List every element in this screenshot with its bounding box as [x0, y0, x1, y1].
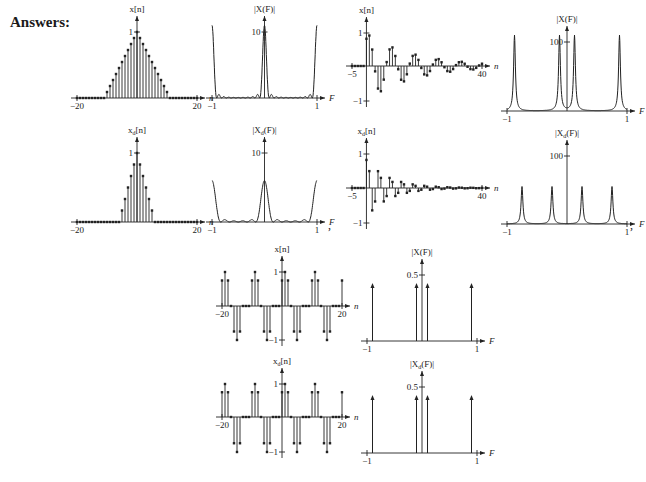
- y-tick-label: 1: [129, 148, 134, 158]
- y-axis-arrow-icon: [135, 16, 139, 21]
- y-tick-label: 1: [274, 379, 279, 389]
- y-tick-label: 0.5: [407, 382, 419, 392]
- x-tick-label: 1: [315, 225, 320, 235]
- x-tick-label: 1: [625, 227, 630, 237]
- x-tick-label: 1: [475, 344, 480, 354]
- answers-heading: Answers:: [10, 14, 70, 31]
- x-axis-label: F: [328, 217, 335, 227]
- plot-title: |Xd(F)|: [252, 125, 276, 136]
- x-axis-arrow-icon: [480, 339, 485, 343]
- y-tick-label: 0.5: [407, 270, 419, 280]
- x-axis-arrow-icon: [345, 415, 350, 419]
- y-axis-arrow-icon: [364, 17, 368, 22]
- x-tick-label: −1: [502, 114, 512, 124]
- x-axis-arrow-icon: [485, 64, 490, 68]
- x-tick-label: 1: [475, 456, 480, 466]
- x-axis-arrow-icon: [480, 451, 485, 455]
- plot-title: x[n]: [130, 4, 145, 14]
- y-tick-label: −1: [268, 335, 278, 345]
- x-axis-arrow-icon: [485, 186, 490, 190]
- y-axis-arrow-icon: [280, 256, 284, 261]
- plot-title: |X(F)|: [254, 4, 275, 14]
- x-tick-label: −1: [207, 225, 217, 235]
- x-tick-label: −20: [70, 101, 85, 111]
- y-tick-label: −1: [268, 447, 278, 457]
- x-axis-label: F: [488, 448, 495, 458]
- x-axis-arrow-icon: [630, 222, 635, 226]
- plot-title: xd[n]: [273, 356, 291, 367]
- y-tick-label: 1: [358, 28, 363, 38]
- x-axis-label: F: [488, 336, 495, 346]
- x-tick-label: −5: [347, 191, 357, 201]
- y-tick-label: −1: [353, 96, 363, 106]
- y-axis-arrow-icon: [263, 137, 267, 142]
- x-tick-label: −20: [215, 420, 230, 430]
- y-tick-label: 100: [550, 37, 564, 47]
- y-tick-label: 10: [252, 148, 262, 158]
- x-tick-label: 40: [478, 69, 488, 79]
- x-tick-label: −1: [207, 101, 217, 111]
- x-axis-label: F: [638, 106, 645, 116]
- x-tick-label: 20: [338, 309, 348, 319]
- y-tick-label: 1: [358, 149, 363, 159]
- y-tick-label: 10: [252, 27, 262, 37]
- x-tick-label: −1: [362, 344, 372, 354]
- x-tick-label: 1: [625, 114, 630, 124]
- y-axis-arrow-icon: [420, 371, 424, 376]
- x-tick-label: −20: [70, 225, 85, 235]
- plot-p12: |Xd(F)|F−110.5: [355, 358, 495, 478]
- x-tick-label: −1: [362, 456, 372, 466]
- y-axis-arrow-icon: [565, 140, 569, 145]
- x-axis-arrow-icon: [320, 220, 325, 224]
- x-tick-label: 1: [315, 101, 320, 111]
- plot-p6: |Xd(F)|F−1110: [200, 128, 335, 238]
- y-axis-arrow-icon: [263, 16, 267, 21]
- plot-title: |Xd(F)|: [410, 359, 434, 370]
- plot-p7: xd[n]n−5401−1: [340, 128, 500, 243]
- plot-title: xd[n]: [128, 125, 146, 136]
- plot-p4: |X(F)|F−11100: [495, 10, 645, 125]
- plot-p9: x[n]n−20201−1: [210, 243, 360, 358]
- y-axis-arrow-icon: [280, 368, 284, 373]
- plot-p3: x[n]n−5401−1: [340, 10, 500, 125]
- x-axis-arrow-icon: [630, 109, 635, 113]
- plot-p1: x[n]n−20201: [65, 18, 215, 128]
- x-axis-arrow-icon: [320, 96, 325, 100]
- plot-title: x[n]: [275, 244, 290, 254]
- y-axis-arrow-icon: [135, 137, 139, 142]
- plot-p5: xd[n]n−20201: [65, 128, 215, 238]
- x-axis-arrow-icon: [345, 304, 350, 308]
- x-tick-label: −5: [347, 69, 357, 79]
- plot-title: xd[n]: [357, 126, 375, 137]
- y-tick-label: 100: [550, 151, 564, 161]
- x-tick-label: 20: [338, 420, 348, 430]
- y-axis-arrow-icon: [420, 259, 424, 264]
- x-tick-label: −20: [215, 309, 230, 319]
- y-tick-label: 1: [274, 267, 279, 277]
- y-tick-label: 1: [129, 27, 134, 37]
- x-tick-label: −1: [502, 227, 512, 237]
- y-axis-arrow-icon: [565, 26, 569, 31]
- x-tick-label: 40: [478, 191, 488, 201]
- x-axis-label: F: [638, 219, 645, 229]
- x-axis-label: F: [328, 93, 335, 103]
- y-axis-arrow-icon: [364, 138, 368, 143]
- plot-p11: xd[n]n−20201−1: [210, 358, 360, 473]
- plot-p10: |X(F)|F−110.5: [355, 243, 495, 358]
- plot-p8: |Xd(F)|F−11100: [495, 128, 645, 243]
- y-tick-label: −1: [353, 218, 363, 228]
- plot-title: |Xd(F)|: [555, 128, 579, 139]
- plot-p2: |X(F)|F−1110: [200, 18, 335, 128]
- plot-title: |X(F)|: [411, 247, 432, 257]
- plot-title: |X(F)|: [556, 14, 577, 24]
- plot-title: x[n]: [359, 5, 374, 15]
